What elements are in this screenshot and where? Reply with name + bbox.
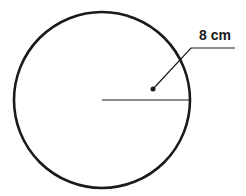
radius-label: 8 cm	[199, 27, 231, 43]
circle-diagram: 8 cm	[0, 0, 246, 196]
leader-line	[153, 48, 235, 89]
